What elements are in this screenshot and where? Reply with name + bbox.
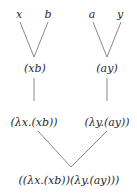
node-app-ay: (ay) <box>96 62 117 75</box>
parse-tree-diagram: x b a y (xb) (ay) (λx.(xb)) (λy.(ay)) ((… <box>0 0 137 193</box>
node-abs-x: (λx.(xb)) <box>10 116 57 129</box>
tree-edges <box>20 22 121 167</box>
edge-a-to-ay <box>93 22 107 57</box>
leaf-y: y <box>116 8 124 21</box>
edge-x-to-xb <box>20 22 34 57</box>
node-app-xb: (xb) <box>24 62 46 75</box>
leaf-a: a <box>89 8 96 21</box>
edge-y-to-ay <box>107 22 121 57</box>
node-root: ((λx.(xb))(λy.(ay))) <box>19 174 120 187</box>
node-abs-y: (λy.(ay)) <box>84 116 129 129</box>
edge-abs-y-to-root <box>71 131 107 167</box>
edge-b-to-xb <box>34 22 48 57</box>
leaf-b: b <box>44 8 51 21</box>
leaf-x: x <box>16 8 23 21</box>
edge-abs-x-to-root <box>38 131 71 167</box>
